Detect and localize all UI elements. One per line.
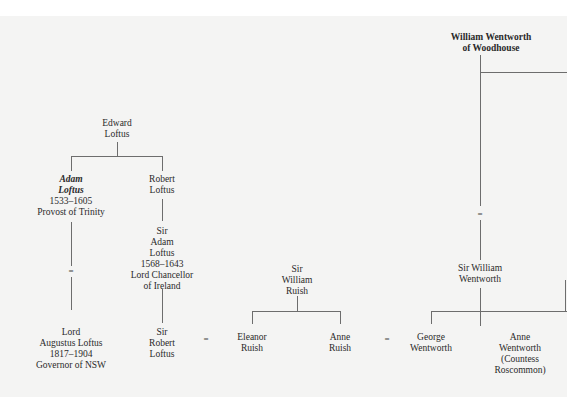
node-william-wentworth-woodhouse: William Wentworth of Woodhouse [451,32,532,54]
connector-line [71,156,72,171]
node-lord-augustus-loftus: Lord Augustus Loftus 1817–1904 Governor … [36,327,106,371]
node-edward-loftus: Edward Loftus [102,118,132,140]
node-sir-william-wentworth: Sir William Wentworth [458,263,502,285]
node-george-wentworth: George Wentworth [410,332,452,354]
connector-line [480,72,567,73]
node-adam-loftus: Adam Loftus 1533–1605 Provost of Trinity [37,174,105,218]
descent-symbol: = [477,210,482,219]
node-robert-loftus: Robert Loftus [149,174,175,196]
connector-line [162,156,163,171]
connector-line [162,199,163,221]
marriage-symbol: = [384,335,389,344]
connector-line [480,145,481,206]
connector-line [71,156,163,157]
connector-line [480,288,481,326]
node-eleanor-ruish: Eleanor Ruish [237,332,267,354]
connector-line [297,296,298,311]
connector-line [252,311,253,324]
connector-line [340,311,341,324]
node-sir-william-ruish: Sir William Ruish [282,264,313,297]
descent-symbol: = [68,267,73,276]
connector-line [565,280,566,311]
node-anne-wentworth: Anne Wentworth (Countess Roscommon) [494,332,545,376]
node-anne-ruish: Anne Ruish [329,332,351,354]
connector-line [117,142,118,156]
connector-line [252,311,341,312]
connector-line [431,311,432,324]
connector-line [480,55,481,145]
connector-line [71,277,72,310]
node-sir-robert-loftus: Sir Robert Loftus [149,327,175,360]
connector-line [162,289,163,323]
marriage-symbol: = [203,335,208,344]
node-sir-adam-loftus: Sir Adam Loftus 1568–1643 Lord Chancello… [131,226,194,292]
connector-line [480,220,481,260]
connector-line [431,311,567,312]
connector-line [71,222,72,266]
